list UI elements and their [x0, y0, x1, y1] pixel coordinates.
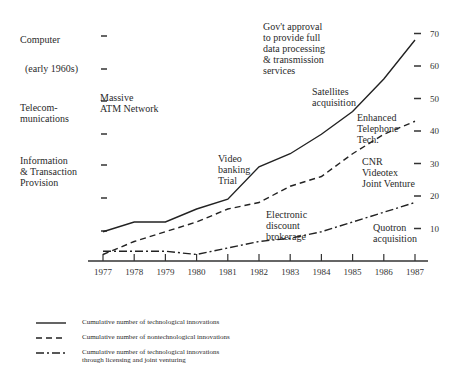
svg-text:20: 20	[430, 191, 440, 201]
svg-text:1987: 1987	[406, 267, 425, 277]
right-axis: 10203040506070	[414, 29, 440, 234]
svg-text:1980: 1980	[188, 267, 207, 277]
annotation-cnr-videotex: CNR Videotex Joint Venture	[362, 156, 415, 189]
legend-item-nontechnological: Cumulative number of nontechnological in…	[34, 333, 230, 347]
series-lines	[103, 40, 415, 255]
annotation-satellites: Satellites acquisition	[312, 86, 356, 108]
svg-text:1985: 1985	[344, 267, 363, 277]
svg-text:30: 30	[430, 159, 440, 169]
svg-text:1982: 1982	[250, 267, 268, 277]
svg-text:1983: 1983	[281, 267, 300, 277]
svg-text:70: 70	[430, 29, 440, 39]
svg-text:1981: 1981	[219, 267, 237, 277]
annotation-electronic-brokerage: Electronic discount brokerage	[266, 209, 307, 242]
annotation-atm-network: Massive ATM Network	[100, 92, 159, 114]
annotation-quotron: Quotron acquisition	[373, 222, 417, 244]
legend-item-technological: Cumulative number of technological innov…	[34, 318, 219, 332]
svg-text:1977: 1977	[94, 267, 113, 277]
annotation-enhanced-telephone: Enhanced Telephone Tech.	[357, 112, 399, 145]
svg-text:50: 50	[430, 94, 440, 104]
svg-text:1979: 1979	[156, 267, 175, 277]
legend-label: Cumulative number of technological innov…	[82, 318, 219, 326]
svg-text:1986: 1986	[375, 267, 394, 277]
svg-text:40: 40	[430, 126, 440, 136]
svg-text:1978: 1978	[125, 267, 144, 277]
legend-label: Cumulative number of nontechnological in…	[82, 333, 230, 341]
annotation-video-banking: Video banking Trial	[218, 153, 250, 186]
svg-text:10: 10	[430, 224, 440, 234]
annotation-gov-approval: Gov't approval to provide full data proc…	[263, 21, 325, 76]
legend-item-licensing: Cumulative number of technological innov…	[34, 348, 219, 362]
legend-label: Cumulative number of technological innov…	[82, 348, 219, 364]
left-axis-ticks	[101, 36, 107, 231]
svg-text:1984: 1984	[312, 267, 331, 277]
x-axis: 1977197819791980198119821983198419851986…	[88, 254, 428, 277]
svg-text:60: 60	[430, 61, 440, 71]
